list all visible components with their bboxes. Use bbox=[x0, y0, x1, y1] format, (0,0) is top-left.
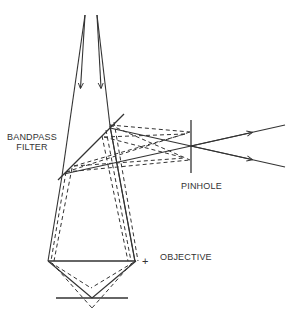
pinhole-label: PINHOLE bbox=[181, 181, 222, 191]
reflected-solid-rays bbox=[64, 125, 285, 174]
bandpass-label-line1: BANDPASS bbox=[6, 132, 58, 142]
incoming-rays bbox=[62, 15, 135, 262]
objective-marker: + bbox=[142, 256, 149, 266]
focal-rays bbox=[48, 261, 136, 308]
bandpass-label-line2: FILTER bbox=[6, 142, 58, 152]
optical-diagram bbox=[0, 0, 290, 321]
objective-label: OBJECTIVE bbox=[160, 252, 212, 262]
bandpass-filter-label: BANDPASS FILTER bbox=[6, 132, 58, 152]
